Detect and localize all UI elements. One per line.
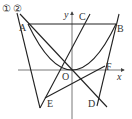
point-label-b: B (117, 23, 124, 34)
point-label-f: F (106, 61, 112, 72)
line-eoc (40, 14, 90, 108)
point-label-a: A (19, 22, 27, 33)
origin-label: O (62, 71, 69, 82)
line-bd (97, 14, 119, 106)
coordinate-diagram: ① ② A B C D E F O x y (0, 0, 132, 119)
point-label-c: C (79, 11, 86, 22)
x-axis-label: x (116, 71, 122, 82)
point-label-d: D (88, 98, 95, 109)
y-axis-label: y (63, 9, 69, 20)
line-2 (20, 14, 107, 107)
point-label-e: E (47, 98, 53, 109)
curve-label-2: ② (13, 3, 22, 14)
curve-label-1: ① (2, 3, 11, 14)
